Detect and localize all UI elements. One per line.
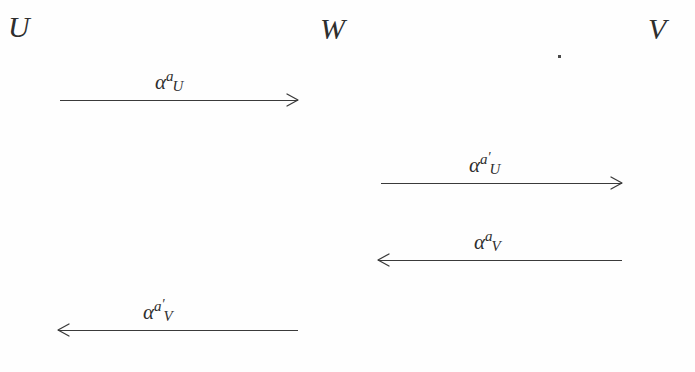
alpha-glyph: α [155,70,166,94]
subscript: V [164,309,173,324]
arrowhead-right-icon [610,176,624,190]
object-label-v: V [648,14,666,44]
arrow-label-v-to-w: αaV [474,232,502,253]
arrowhead-left-icon [376,253,390,267]
object-label-u: U [8,12,30,42]
arrow-label-w-to-v: αa′U [469,155,501,176]
superscript-base: a [480,151,488,167]
alpha-glyph: α [143,300,154,324]
arrowhead-left-icon [56,323,70,337]
scan-speck-artifact [558,55,561,58]
arrow-label-u-to-w: αaU [155,72,184,93]
superscript-base: a [154,298,162,314]
arrow-line [60,100,298,101]
subscript: U [490,162,501,177]
subscript: V [492,239,501,254]
alpha-glyph: α [474,230,485,254]
diagram-canvas: U W V αaU αa′U [0,0,695,372]
arrow-line [58,330,298,331]
alpha-glyph: α [469,153,480,177]
arrowhead-right-icon [286,93,300,107]
arrow-line [381,183,622,184]
arrow-label-w-to-u: αa′V [143,302,174,323]
subscript: U [173,79,184,94]
arrow-line [378,260,622,261]
object-label-w: W [320,14,345,44]
